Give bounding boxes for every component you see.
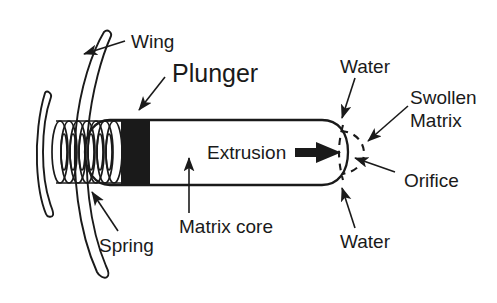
swollen-matrix-leader <box>368 106 408 141</box>
water-bottom-leader <box>342 188 355 228</box>
orifice-leader <box>355 158 395 172</box>
label-orifice: Orifice <box>404 170 459 191</box>
label-matrix-core: Matrix core <box>179 216 273 237</box>
spring-leader <box>92 192 118 231</box>
water-top-leader <box>342 78 355 118</box>
plunger <box>121 121 150 186</box>
label-wing: Wing <box>131 31 174 52</box>
label-water-bottom: Water <box>340 231 391 252</box>
label-spring: Spring <box>99 235 154 256</box>
label-swollen-matrix-line1: Swollen <box>410 87 477 108</box>
plunger-leader <box>139 77 165 110</box>
label-extrusion: Extrusion <box>207 142 286 163</box>
wing-inner <box>37 92 53 217</box>
capsule-diagram: Wing Plunger Spring Matrix core Extrusio… <box>0 0 497 303</box>
label-plunger: Plunger <box>172 59 258 87</box>
label-water-top: Water <box>340 56 391 77</box>
figure-canvas: Wing Plunger Spring Matrix core Extrusio… <box>0 0 497 303</box>
label-swollen-matrix-line2: Matrix <box>410 110 462 131</box>
